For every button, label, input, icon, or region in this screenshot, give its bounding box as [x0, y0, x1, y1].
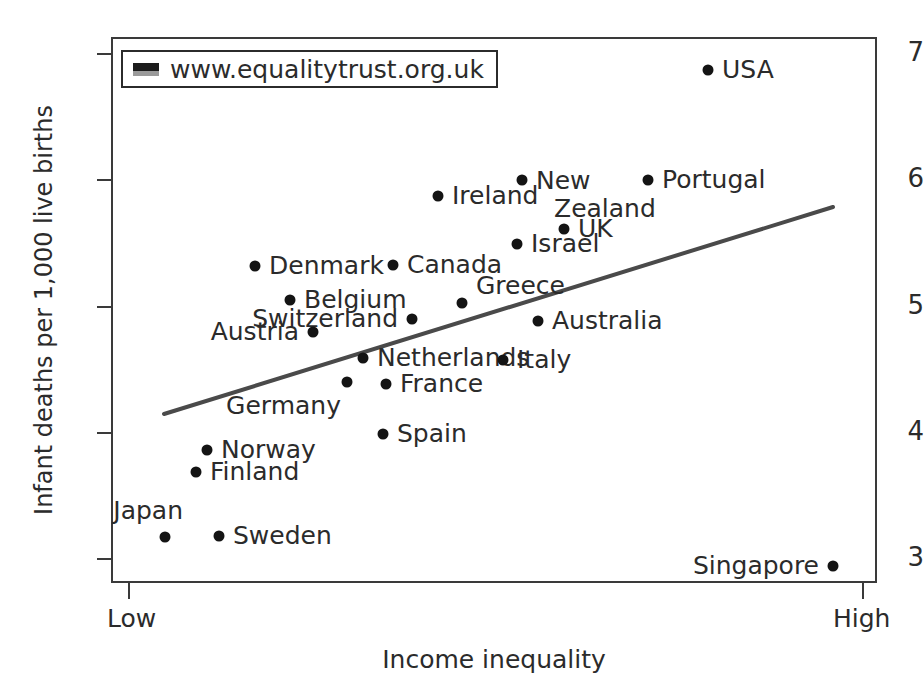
data-point-label-denmark: Denmark	[269, 253, 384, 280]
data-point-label-usa: USA	[722, 57, 774, 84]
data-point-finland	[191, 467, 202, 478]
data-point-label-italy: Italy	[517, 347, 571, 374]
x-tick-mark-low	[128, 583, 130, 599]
data-point-sweden	[214, 531, 225, 542]
data-point-usa	[703, 65, 714, 76]
data-point-label-singapore: Singapore	[693, 553, 819, 580]
y-tick-mark-4	[97, 432, 111, 434]
y-tick-label-6: 6	[878, 163, 924, 193]
x-axis-title: Income inequality	[111, 645, 877, 674]
y-tick-label-7: 7	[878, 37, 924, 67]
scatter-chart-figure: 7 6 5 4 3 Low High Infant deaths per 1,0…	[0, 0, 924, 692]
y-tick-label-5: 5	[878, 290, 924, 320]
data-point-label-ireland: Ireland	[452, 183, 538, 210]
data-point-australia	[533, 316, 544, 327]
data-point-italy	[498, 355, 509, 366]
y-axis-title: Infant deaths per 1,000 live births	[30, 37, 64, 583]
data-point-label-israel: Israel	[531, 231, 599, 258]
data-point-germany	[342, 377, 353, 388]
data-point-france	[381, 379, 392, 390]
data-point-israel	[512, 239, 523, 250]
data-point-netherlands	[358, 353, 369, 364]
y-tick-label-3: 3	[878, 542, 924, 572]
data-point-singapore	[828, 561, 839, 572]
data-point-label-greece: Greece	[476, 273, 565, 300]
data-point-canada	[388, 260, 399, 271]
data-point-switzerland	[407, 314, 418, 325]
legend: www.equalitytrust.org.uk	[121, 50, 498, 88]
legend-label: www.equalitytrust.org.uk	[170, 57, 484, 82]
y-tick-mark-3	[97, 558, 111, 560]
data-point-denmark	[250, 261, 261, 272]
data-point-spain	[378, 429, 389, 440]
data-point-label-france: France	[400, 371, 483, 398]
y-tick-label-4: 4	[878, 416, 924, 446]
y-tick-mark-7	[97, 53, 111, 55]
data-point-label-finland: Finland	[210, 459, 299, 486]
data-point-norway	[202, 445, 213, 456]
y-tick-mark-5	[97, 306, 111, 308]
data-point-label-sweden: Sweden	[233, 523, 332, 550]
data-point-japan	[160, 532, 171, 543]
data-point-ireland	[433, 191, 444, 202]
data-point-label-germany: Germany	[226, 393, 341, 420]
plot-area-frame	[111, 37, 877, 583]
data-point-austria	[308, 327, 319, 338]
y-tick-mark-6	[97, 179, 111, 181]
data-point-label-portugal: Portugal	[662, 167, 766, 194]
data-point-label-austria: Austria	[211, 319, 299, 346]
x-tick-mark-high	[862, 583, 864, 599]
x-tick-label-low: Low	[107, 604, 156, 633]
data-point-label-japan: Japan	[113, 498, 183, 525]
data-point-label-spain: Spain	[397, 421, 467, 448]
x-tick-label-high: High	[833, 604, 890, 633]
data-point-greece	[457, 298, 468, 309]
legend-swatch-icon	[133, 63, 159, 76]
data-point-label-australia: Australia	[552, 308, 663, 335]
